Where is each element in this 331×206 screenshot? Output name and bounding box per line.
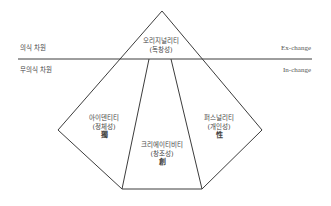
- region-personality-hanja: 性: [204, 131, 234, 140]
- region-personality-title: 퍼스널리티: [204, 114, 234, 123]
- inner-right-divider: [171, 59, 202, 189]
- region-originality-title: 오리지널리티: [143, 37, 179, 46]
- region-creativity-title: 크리에이티비티: [141, 141, 183, 150]
- exchange-label: Ex-change: [281, 44, 311, 52]
- inner-left-divider: [122, 59, 149, 189]
- region-originality: 오리지널리티 (독창성): [143, 37, 179, 54]
- region-originality-subtitle: (독창성): [143, 46, 179, 55]
- pyramid-diagram: [0, 0, 331, 206]
- region-creativity-hanja: 創: [141, 158, 183, 167]
- region-identity: 아이덴티티 (정체성) 獨: [89, 114, 119, 140]
- region-identity-title: 아이덴티티: [89, 114, 119, 123]
- unconscious-dimension-label: 무의식 차원: [20, 66, 52, 74]
- region-identity-hanja: 獨: [89, 131, 119, 140]
- conscious-dimension-label: 의식 차원: [20, 44, 46, 52]
- inchange-label: In-change: [283, 66, 311, 74]
- region-personality: 퍼스널리티 (개인성) 性: [204, 114, 234, 140]
- region-creativity: 크리에이티비티 (창조성) 創: [141, 141, 183, 167]
